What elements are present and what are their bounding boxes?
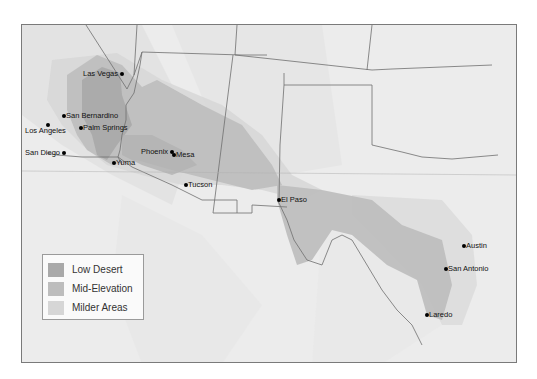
city-san-antonio: San Antonio: [444, 264, 488, 273]
legend-item-low-desert: Low Desert: [48, 260, 138, 279]
city-label: Phoenix: [141, 147, 168, 156]
legend-item-mid-elevation: Mid-Elevation: [48, 279, 138, 298]
city-san-bernardino: San Bernardino: [62, 111, 118, 120]
city-label: Mesa: [176, 150, 194, 159]
legend-item-milder-areas: Milder Areas: [48, 298, 138, 317]
legend-label: Mid-Elevation: [72, 283, 133, 294]
city-yuma: Yuma: [112, 158, 135, 167]
city-label: Los Angeles: [25, 126, 66, 135]
city-label: Las Vegas: [83, 69, 118, 78]
city-san-diego: San Diego: [25, 148, 66, 157]
low-desert-swatch: [48, 263, 64, 277]
mid-elevation-swatch: [48, 282, 64, 296]
legend-label: Milder Areas: [72, 302, 128, 313]
city-label: San Antonio: [448, 264, 488, 273]
milder-areas-swatch: [48, 301, 64, 315]
city-label: Laredo: [429, 310, 452, 319]
city-phoenix: Phoenix: [141, 147, 174, 156]
city-las-vegas: Las Vegas: [83, 69, 124, 78]
city-label: San Bernardino: [66, 111, 118, 120]
city-el-paso: El Paso: [277, 195, 307, 204]
map-legend: Low Desert Mid-Elevation Milder Areas: [42, 254, 144, 320]
city-label: Tucson: [188, 180, 212, 189]
city-marker-icon: [62, 151, 66, 155]
legend-label: Low Desert: [72, 264, 123, 275]
city-laredo: Laredo: [425, 310, 452, 319]
city-label: San Diego: [25, 148, 60, 157]
city-austin: Austin: [462, 241, 487, 250]
city-tucson: Tucson: [184, 180, 212, 189]
city-label: Austin: [466, 241, 487, 250]
city-label: Palm Springs: [83, 123, 128, 132]
city-mesa: Mesa: [172, 150, 194, 159]
city-label: El Paso: [281, 195, 307, 204]
city-marker-icon: [120, 72, 124, 76]
city-los-angeles: Los Angeles: [25, 126, 66, 135]
city-palm-springs: Palm Springs: [79, 123, 128, 132]
city-label: Yuma: [116, 158, 135, 167]
